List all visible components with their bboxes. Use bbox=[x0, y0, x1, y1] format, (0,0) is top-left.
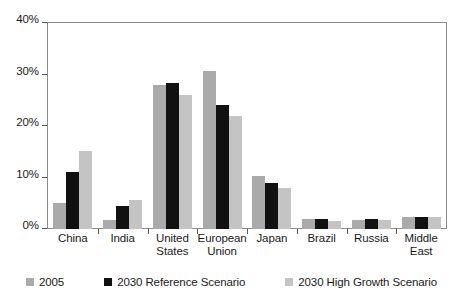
y-axis-tick-label: 10% bbox=[16, 169, 39, 181]
bar-chart-figure: 0%10%20%30%40% ChinaIndiaUnitedStatesEur… bbox=[0, 0, 463, 302]
x-axis-label: India bbox=[98, 232, 148, 258]
bar[interactable] bbox=[415, 217, 428, 229]
x-axis-tick-mark bbox=[396, 229, 397, 234]
legend-label: 2030 High Growth Scenario bbox=[298, 276, 437, 288]
bar[interactable] bbox=[116, 206, 129, 229]
x-axis: ChinaIndiaUnitedStatesEuropeanUnionJapan… bbox=[48, 232, 446, 258]
x-axis-label-line: East bbox=[396, 245, 446, 258]
x-axis-label-line: Russia bbox=[347, 232, 397, 245]
bar-group bbox=[247, 23, 297, 229]
bar[interactable] bbox=[352, 220, 365, 229]
x-axis-label-line: India bbox=[98, 232, 148, 245]
x-axis-label: Brazil bbox=[297, 232, 347, 258]
bar[interactable] bbox=[203, 71, 216, 229]
x-axis-label-line: Brazil bbox=[297, 232, 347, 245]
bar-group bbox=[148, 23, 198, 229]
x-axis-tick-mark bbox=[148, 229, 149, 234]
bar-group bbox=[197, 23, 247, 229]
bar[interactable] bbox=[302, 219, 315, 229]
bar[interactable] bbox=[179, 95, 192, 229]
y-axis-tick-mark bbox=[42, 125, 47, 126]
bars-layer bbox=[48, 23, 446, 229]
bar[interactable] bbox=[229, 116, 242, 229]
y-axis-tick-label: 20% bbox=[16, 117, 39, 129]
bar[interactable] bbox=[129, 200, 142, 229]
bar[interactable] bbox=[315, 219, 328, 229]
legend-item[interactable]: 2030 Reference Scenario bbox=[104, 276, 245, 288]
bar[interactable] bbox=[328, 221, 341, 229]
bar[interactable] bbox=[53, 203, 66, 229]
x-axis-label-line: Middle bbox=[396, 232, 446, 245]
x-axis-tick-mark bbox=[197, 229, 198, 234]
legend-swatch-icon bbox=[104, 278, 112, 286]
legend-swatch-icon bbox=[26, 278, 34, 286]
bar[interactable] bbox=[103, 220, 116, 229]
y-axis-tick-label: 30% bbox=[16, 66, 39, 78]
x-axis-label-line: Union bbox=[197, 245, 247, 258]
x-axis-label: China bbox=[48, 232, 98, 258]
bar-group bbox=[297, 23, 347, 229]
y-axis-tick-mark bbox=[42, 22, 47, 23]
x-axis-tick-mark bbox=[98, 229, 99, 234]
legend-label: 2005 bbox=[39, 276, 64, 288]
x-axis-label: MiddleEast bbox=[396, 232, 446, 258]
chart-legend: 20052030 Reference Scenario2030 High Gro… bbox=[0, 276, 463, 288]
legend-swatch-icon bbox=[285, 278, 293, 286]
x-axis-label-line: European bbox=[197, 232, 247, 245]
bar[interactable] bbox=[265, 183, 278, 229]
bar[interactable] bbox=[216, 105, 229, 229]
bar[interactable] bbox=[402, 217, 415, 229]
bar[interactable] bbox=[166, 83, 179, 229]
x-axis-label: Japan bbox=[247, 232, 297, 258]
bar[interactable] bbox=[66, 172, 79, 229]
x-axis-tick-mark bbox=[297, 229, 298, 234]
x-axis-label-line: China bbox=[48, 232, 98, 245]
x-axis-tick-mark bbox=[347, 229, 348, 234]
bar[interactable] bbox=[79, 151, 92, 229]
y-axis-tick-label: 40% bbox=[16, 14, 39, 26]
x-axis-label-line: United bbox=[148, 232, 198, 245]
bar[interactable] bbox=[378, 220, 391, 229]
y-axis-tick-mark bbox=[42, 74, 47, 75]
bar[interactable] bbox=[252, 176, 265, 229]
bar[interactable] bbox=[153, 85, 166, 229]
x-axis-label: EuropeanUnion bbox=[197, 232, 247, 258]
bar-group bbox=[347, 23, 397, 229]
x-axis-label-line: Japan bbox=[247, 232, 297, 245]
x-axis-label: Russia bbox=[347, 232, 397, 258]
bar-group bbox=[396, 23, 446, 229]
bar[interactable] bbox=[428, 217, 441, 229]
legend-label: 2030 Reference Scenario bbox=[117, 276, 245, 288]
y-axis-tick-mark bbox=[42, 177, 47, 178]
legend-item[interactable]: 2030 High Growth Scenario bbox=[285, 276, 437, 288]
x-axis-label-line: States bbox=[148, 245, 198, 258]
y-axis-tick-label: 0% bbox=[23, 220, 39, 232]
bar-group bbox=[48, 23, 98, 229]
bar[interactable] bbox=[278, 188, 291, 229]
legend-item[interactable]: 2005 bbox=[26, 276, 64, 288]
x-axis-label: UnitedStates bbox=[148, 232, 198, 258]
bar-group bbox=[98, 23, 148, 229]
x-axis-tick-mark bbox=[247, 229, 248, 234]
y-axis: 0%10%20%30%40% bbox=[0, 0, 47, 252]
bar[interactable] bbox=[365, 219, 378, 229]
y-axis-tick-mark bbox=[42, 228, 47, 229]
